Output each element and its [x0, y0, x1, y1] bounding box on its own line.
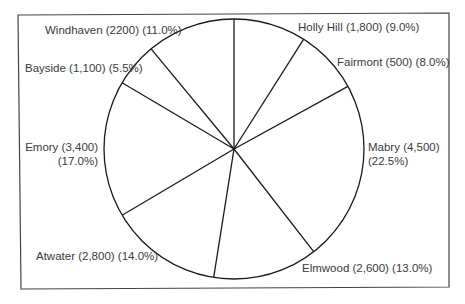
label-mabry-percent: (22.5%)	[368, 155, 408, 167]
label-elmwood: Elmwood (2,600) (13.0%)	[302, 262, 433, 274]
label-mabry-name: Mabry (4,500)	[368, 141, 440, 153]
pie-chart: Holly Hill (1,800) (9.0%) Fairmont (500)…	[0, 0, 465, 304]
label-emory-percent: (17.0%)	[58, 155, 98, 167]
label-windhaven: Windhaven (2200) (11.0%)	[45, 24, 182, 36]
label-emory-name: Emory (3,400)	[25, 141, 98, 153]
label-fairmont: Fairmont (500) (8.0%)	[337, 56, 450, 68]
label-bayside: Bayside (1,100) (5.5%)	[25, 62, 143, 74]
label-atwater: Atwater (2,800) (14.0%)	[36, 250, 158, 262]
label-holly-hill: Holly Hill (1,800) (9.0%)	[298, 21, 420, 33]
